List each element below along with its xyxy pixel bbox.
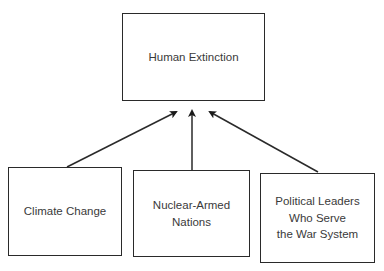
box-label: Nuclear-Armed Nations [153,197,230,230]
box-label: Human Extinction [148,49,238,66]
box-label: Political Leaders Who Serve the War Syst… [275,193,359,243]
box-climate-change: Climate Change [8,167,122,256]
arrow-leaders-to-extinction [210,112,318,172]
box-political-leaders: Political Leaders Who Serve the War Syst… [260,173,375,263]
box-nuclear-armed-nations: Nuclear-Armed Nations [133,170,250,257]
box-human-extinction: Human Extinction [122,13,265,101]
box-label: Climate Change [24,203,106,220]
arrow-climate-to-extinction [67,112,176,167]
